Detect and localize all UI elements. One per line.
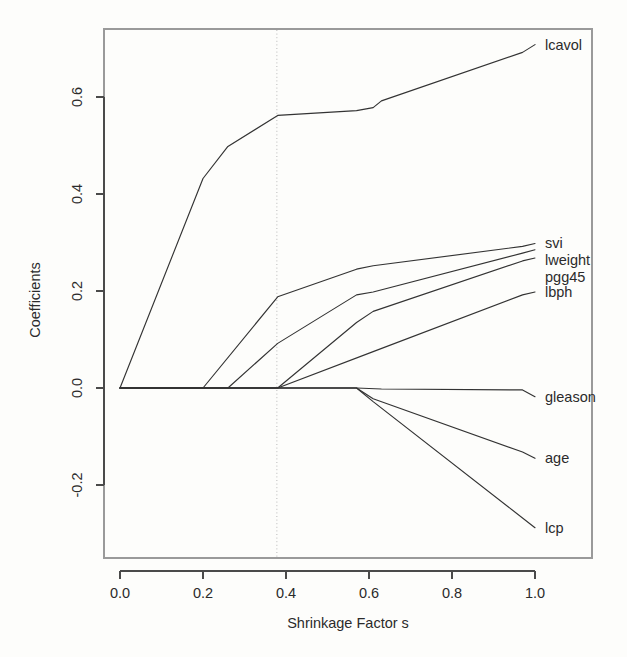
coef-path-lweight: [120, 250, 535, 388]
x-tick-label: 0.8: [442, 585, 462, 601]
series-label-lcavol: lcavol: [545, 37, 582, 53]
plot-frame: [104, 29, 592, 558]
y-axis-title: Coefficients: [27, 262, 43, 338]
x-tick-label: 0.2: [193, 585, 213, 601]
x-axis-title: Shrinkage Factor s: [287, 615, 409, 631]
coefficient-path-chart: -0.20.00.20.40.6 0.00.20.40.60.81.0 lcav…: [0, 0, 627, 657]
series-group: [120, 45, 535, 528]
series-label-lcp: lcp: [545, 520, 564, 536]
series-label-svi: svi: [545, 235, 563, 251]
coef-path-lbph: [120, 292, 535, 388]
coef-path-lcp: [120, 388, 535, 528]
series-label-group: lcavolsvilweightpgg45lbphgleasonagelcp: [545, 37, 596, 536]
x-tick-label: 1.0: [525, 585, 545, 601]
series-label-lbph: lbph: [545, 284, 572, 300]
y-tick-label: -0.2: [69, 473, 85, 498]
y-tick-label: 0.2: [69, 281, 85, 301]
x-tick-label: 0.0: [110, 585, 130, 601]
series-label-gleason: gleason: [545, 389, 596, 405]
y-axis: -0.20.00.20.40.6: [69, 87, 104, 498]
coef-path-gleason: [120, 388, 535, 397]
x-tick-label: 0.4: [276, 585, 296, 601]
x-axis: 0.00.20.40.60.81.0: [110, 571, 545, 601]
series-label-pgg45: pgg45: [545, 269, 585, 285]
x-tick-label: 0.6: [359, 585, 379, 601]
coef-path-age: [120, 388, 535, 458]
coef-path-lcavol: [120, 45, 535, 388]
series-label-age: age: [545, 450, 569, 466]
y-tick-label: 0.0: [69, 378, 85, 398]
y-tick-label: 0.4: [69, 184, 85, 204]
y-tick-label: 0.6: [69, 87, 85, 107]
series-label-lweight: lweight: [545, 252, 590, 268]
lasso-coefficient-path-figure: -0.20.00.20.40.6 0.00.20.40.60.81.0 lcav…: [0, 0, 627, 657]
coef-path-svi: [120, 243, 535, 388]
